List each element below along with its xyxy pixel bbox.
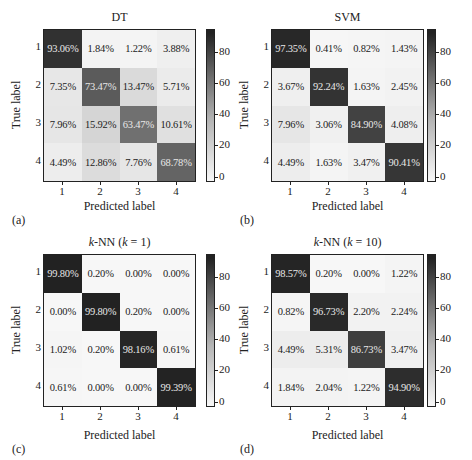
confusion-matrix: 93.06%1.84%1.22%3.88%7.35%73.47%13.47%5.… (43, 29, 196, 182)
matrix-cell: 4.49% (272, 143, 310, 181)
colorbar-tick: 60 (440, 301, 451, 313)
matrix-cell: 2.24% (385, 293, 423, 331)
colorbar (427, 254, 436, 407)
matrix-cell: 2.20% (348, 293, 386, 331)
matrix-cell: 15.92% (82, 106, 120, 144)
x-tick: 3 (356, 185, 376, 197)
x-axis-label: Predicted label (271, 199, 424, 214)
matrix-cell: 68.78% (157, 143, 195, 181)
matrix-cell: 0.00% (348, 255, 386, 293)
matrix-cell: 1.63% (348, 68, 386, 106)
matrix-cell: 98.57% (272, 255, 310, 293)
matrix-cell: 1.43% (385, 30, 423, 68)
x-tick: 3 (356, 410, 376, 422)
matrix-cell: 0.41% (310, 30, 348, 68)
colorbar (206, 254, 215, 407)
confusion-matrix: 97.35%0.41%0.82%1.43%3.67%92.24%1.63%2.4… (271, 29, 424, 182)
matrix-cell: 99.39% (157, 368, 195, 406)
matrix-cell: 92.24% (310, 68, 348, 106)
matrix-cell: 4.49% (272, 331, 310, 369)
matrix-cell: 10.61% (157, 106, 195, 144)
matrix-cell: 1.84% (82, 30, 120, 68)
matrix-cell: 1.02% (44, 331, 82, 369)
matrix-cell: 1.22% (120, 30, 158, 68)
y-axis-label: True label (237, 75, 252, 135)
matrix-cell: 7.96% (44, 106, 82, 144)
matrix-cell: 0.82% (272, 293, 310, 331)
matrix-cell: 0.20% (82, 255, 120, 293)
y-tick: 2 (259, 303, 269, 315)
panel-label: (d) (240, 442, 254, 457)
colorbar-tick: 0 (440, 395, 446, 407)
y-tick: 2 (31, 78, 41, 90)
matrix-cell: 0.61% (44, 368, 82, 406)
matrix-cell: 3.47% (348, 143, 386, 181)
chart-title: SVM (271, 10, 424, 25)
y-tick: 3 (259, 341, 269, 353)
y-tick: 2 (259, 78, 269, 90)
x-axis-label: Predicted label (43, 199, 196, 214)
matrix-cell: 0.61% (157, 331, 195, 369)
panel-dt: DT True label 1 2 3 4 93.06%1.84%1.22%3.… (0, 0, 236, 230)
x-tick: 2 (318, 410, 338, 422)
matrix-cell: 1.22% (385, 255, 423, 293)
y-tick: 4 (31, 379, 41, 391)
matrix-cell: 99.80% (44, 255, 82, 293)
y-tick: 4 (31, 154, 41, 166)
matrix-cell: 0.00% (82, 368, 120, 406)
confusion-matrix: 99.80%0.20%0.00%0.00%0.00%99.80%0.20%0.0… (43, 254, 196, 407)
matrix-cell: 4.08% (385, 106, 423, 144)
colorbar-tick: 80 (440, 45, 451, 57)
matrix-cell: 0.20% (310, 255, 348, 293)
chart-title: DT (43, 10, 196, 25)
x-tick: 2 (318, 185, 338, 197)
colorbar-tick: 60 (440, 76, 451, 88)
matrix-cell: 5.71% (157, 68, 195, 106)
panel-knn-k10: k-NN (k = 10) True label 1 2 3 4 98.57%0… (228, 225, 464, 455)
colorbar-tick: 20 (440, 363, 451, 375)
y-tick: 1 (259, 265, 269, 277)
x-tick: 4 (166, 410, 186, 422)
matrix-cell: 3.88% (157, 30, 195, 68)
y-tick: 1 (31, 40, 41, 52)
x-tick: 1 (52, 410, 72, 422)
colorbar-tick: 0 (219, 170, 225, 182)
matrix-cell: 7.76% (120, 143, 158, 181)
matrix-cell: 99.80% (82, 293, 120, 331)
matrix-cell: 73.47% (82, 68, 120, 106)
matrix-cell: 4.49% (44, 143, 82, 181)
y-axis-label: True label (9, 300, 24, 360)
y-tick: 3 (31, 116, 41, 128)
colorbar-tick: 40 (440, 107, 451, 119)
matrix-cell: 94.90% (385, 368, 423, 406)
panel-label: (c) (12, 442, 25, 457)
matrix-cell: 0.00% (157, 293, 195, 331)
x-tick: 1 (280, 410, 300, 422)
y-tick: 4 (259, 379, 269, 391)
x-tick: 4 (394, 185, 414, 197)
x-tick: 3 (128, 185, 148, 197)
y-tick: 2 (31, 303, 41, 315)
matrix-cell: 90.41% (385, 143, 423, 181)
matrix-cell: 0.00% (120, 368, 158, 406)
matrix-cell: 0.20% (82, 331, 120, 369)
y-tick: 4 (259, 154, 269, 166)
matrix-cell: 12.86% (82, 143, 120, 181)
matrix-cell: 7.35% (44, 68, 82, 106)
matrix-cell: 0.20% (120, 293, 158, 331)
matrix-cell: 84.90% (348, 106, 386, 144)
panel-knn-k1: k-NN (k = 1) True label 1 2 3 4 99.80%0.… (0, 225, 236, 455)
chart-title: k-NN (k = 1) (43, 235, 196, 250)
panel-svm: SVM True label 1 2 3 4 97.35%0.41%0.82%1… (228, 0, 464, 230)
colorbar-tick: 40 (440, 332, 451, 344)
x-tick: 3 (128, 410, 148, 422)
x-tick: 2 (90, 185, 110, 197)
matrix-cell: 1.84% (272, 368, 310, 406)
matrix-cell: 0.82% (348, 30, 386, 68)
matrix-cell: 0.00% (157, 255, 195, 293)
chart-title: k-NN (k = 10) (271, 235, 424, 250)
matrix-cell: 96.73% (310, 293, 348, 331)
y-tick: 3 (259, 116, 269, 128)
y-tick: 3 (31, 341, 41, 353)
y-axis-label: True label (9, 75, 24, 135)
